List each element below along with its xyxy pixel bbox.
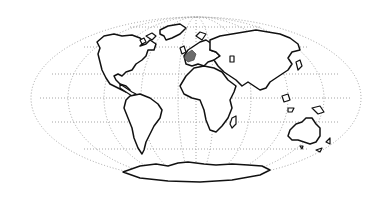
world-map bbox=[0, 0, 384, 198]
caspian-sea bbox=[230, 56, 234, 62]
greenland bbox=[160, 24, 186, 40]
central-america bbox=[120, 84, 136, 96]
southeast-asia-islands bbox=[282, 94, 290, 102]
antarctica bbox=[123, 162, 270, 182]
world-map-svg bbox=[0, 0, 384, 198]
new-zealand bbox=[316, 148, 322, 152]
new-guinea bbox=[312, 106, 324, 114]
north-america bbox=[97, 34, 156, 92]
baffin-island bbox=[146, 33, 156, 40]
madagascar bbox=[230, 116, 236, 128]
south-america bbox=[124, 94, 162, 154]
scandinavia bbox=[196, 32, 206, 40]
japan bbox=[296, 60, 302, 70]
africa bbox=[180, 66, 236, 132]
